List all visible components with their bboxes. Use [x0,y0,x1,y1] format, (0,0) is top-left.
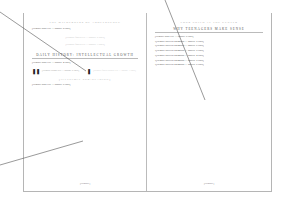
page-number-right: [illegible] [147,182,271,185]
section-heading-right: Why Teenagers Make Sense [155,27,263,33]
closing-paragraph: [illegible body text — approx. 6 lines] [32,83,138,86]
callout-row: ❚❚ [illegible callout text — approx. 5 l… [32,69,138,74]
intro-paragraph: [illegible body text — approx. 8 lines] [32,27,138,30]
section-heading-left: Daily History: Intellectual Growth [32,53,138,59]
sub-heading: [illegible sub-heading] [32,78,138,81]
bullet-paragraph: [illegible bulleted paragraph — approx. … [155,54,263,57]
book-spread: The Wilderness of Adolescence [illegible… [23,13,272,192]
quote-mark-icon: ❚❚ [32,69,40,74]
right-page: Your Child at the Center Why Teenagers M… [147,13,271,191]
bullet-paragraph: [illegible bulleted paragraph — approx. … [155,59,263,62]
callout-text: [illegible faded callout text — approx. … [93,69,136,74]
bullet-paragraph: [illegible bulleted paragraph — approx. … [155,44,263,47]
bullet-paragraph: [illegible bulleted paragraph — approx. … [155,63,263,66]
bullet-paragraph: [illegible bulleted paragraph — approx. … [155,40,263,43]
running-head-right: Your Child at the Center [155,21,263,24]
quote-mark-icon: ❚ [87,69,91,74]
callout-box: ❚❚ [illegible callout text — approx. 5 l… [32,69,83,74]
callout-text: [illegible callout text — approx. 5 line… [42,69,79,74]
page-number-left: [illegible] [24,182,146,185]
running-head-left: The Wilderness of Adolescence [32,21,138,24]
callout-box: ❚ [illegible faded callout text — approx… [87,69,138,74]
body-paragraph: [illegible body text — approx. 6 lines] [155,35,263,38]
faded-block: [illegible faded text — approx. 3 lines] [32,43,138,46]
bullet-paragraph: [illegible bulleted paragraph — approx. … [155,49,263,52]
faded-block: [illegible faded text — approx. 5 lines] [32,36,138,39]
left-page: The Wilderness of Adolescence [illegible… [24,13,147,191]
section-paragraph: [illegible body text — approx. 4 lines] [32,61,138,64]
